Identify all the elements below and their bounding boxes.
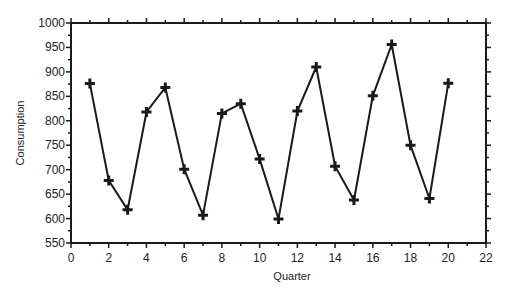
y-tick-label: 800 bbox=[45, 114, 65, 128]
x-tick-label: 18 bbox=[404, 251, 418, 265]
x-tick-label: 16 bbox=[366, 251, 380, 265]
plus-marker bbox=[311, 62, 321, 72]
y-tick-label: 900 bbox=[45, 65, 65, 79]
plus-marker bbox=[179, 164, 189, 174]
y-tick-label: 700 bbox=[45, 163, 65, 177]
plus-marker bbox=[292, 106, 302, 116]
plus-marker bbox=[349, 195, 359, 205]
x-tick-label: 14 bbox=[328, 251, 342, 265]
x-tick-label: 4 bbox=[143, 251, 150, 265]
y-axis-label: Consumption bbox=[14, 101, 26, 166]
x-tick-label: 8 bbox=[219, 251, 226, 265]
x-tick-label: 6 bbox=[181, 251, 188, 265]
line-chart: 0246810121416182022550600650700750800850… bbox=[0, 0, 516, 292]
y-tick-label: 1000 bbox=[38, 16, 65, 30]
x-tick-label: 20 bbox=[442, 251, 456, 265]
data-point-markers bbox=[85, 40, 453, 225]
plus-marker bbox=[123, 205, 133, 215]
y-tick-label: 850 bbox=[45, 89, 65, 103]
plus-marker bbox=[406, 140, 416, 150]
plus-marker bbox=[424, 194, 434, 204]
plot-axes bbox=[71, 23, 486, 243]
x-tick-label: 22 bbox=[479, 251, 493, 265]
plus-marker bbox=[236, 99, 246, 109]
plus-marker bbox=[387, 40, 397, 50]
plus-marker bbox=[217, 108, 227, 118]
plus-marker bbox=[198, 210, 208, 220]
y-tick-label: 650 bbox=[45, 187, 65, 201]
x-tick-label: 10 bbox=[253, 251, 267, 265]
y-tick-label: 600 bbox=[45, 212, 65, 226]
plus-marker bbox=[85, 79, 95, 89]
x-tick-label: 12 bbox=[291, 251, 305, 265]
plus-marker bbox=[368, 91, 378, 101]
plus-marker bbox=[104, 175, 114, 185]
plus-marker bbox=[443, 78, 453, 88]
y-tick-label: 550 bbox=[45, 236, 65, 250]
plus-marker bbox=[274, 214, 284, 224]
plus-marker bbox=[255, 154, 265, 164]
x-axis-label: Quarter bbox=[273, 270, 311, 282]
consumption-line bbox=[90, 45, 448, 220]
tick-labels: 0246810121416182022550600650700750800850… bbox=[38, 16, 493, 265]
plus-marker bbox=[330, 161, 340, 171]
y-tick-label: 950 bbox=[45, 40, 65, 54]
x-tick-label: 2 bbox=[105, 251, 112, 265]
y-tick-label: 750 bbox=[45, 138, 65, 152]
x-tick-label: 0 bbox=[68, 251, 75, 265]
